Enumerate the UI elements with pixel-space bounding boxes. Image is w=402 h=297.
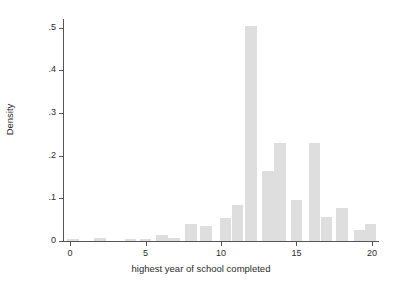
histogram-bar xyxy=(291,200,303,241)
histogram-bar xyxy=(140,239,152,241)
x-tick-mark xyxy=(70,242,71,246)
y-tick-mark xyxy=(59,28,63,29)
x-tick-label: 20 xyxy=(357,248,387,258)
histogram-figure: 0.1.2.3.4.5 05101520 highest year of sch… xyxy=(0,0,402,297)
histogram-bar xyxy=(365,224,377,242)
x-tick-label: 10 xyxy=(206,248,236,258)
x-tick-label: 5 xyxy=(131,248,161,258)
histogram-bar xyxy=(220,218,232,241)
histogram-bar xyxy=(185,224,197,241)
histogram-bar xyxy=(156,235,168,241)
y-tick-label: .5 xyxy=(48,23,56,32)
x-tick-mark xyxy=(296,242,297,246)
histogram-bar xyxy=(245,26,257,241)
histogram-bar xyxy=(309,143,321,241)
y-tick-mark xyxy=(59,156,63,157)
y-tick-label: .2 xyxy=(48,151,56,160)
x-tick-mark xyxy=(146,242,147,246)
histogram-bar xyxy=(125,239,137,241)
histogram-bar xyxy=(232,205,244,241)
x-tick-mark xyxy=(221,242,222,246)
y-tick-mark xyxy=(59,241,63,242)
y-tick-label: .4 xyxy=(48,65,56,74)
bars-layer xyxy=(64,19,378,241)
histogram-bar xyxy=(274,143,286,241)
y-axis-title: Density xyxy=(4,90,15,150)
histogram-bar xyxy=(336,208,348,241)
x-tick-label: 0 xyxy=(55,248,85,258)
histogram-bar xyxy=(168,238,180,241)
y-tick-mark xyxy=(59,70,63,71)
y-tick-label: .3 xyxy=(48,108,56,117)
x-tick-mark xyxy=(372,242,373,246)
x-axis-title: highest year of school completed xyxy=(0,263,402,274)
y-tick-mark xyxy=(59,113,63,114)
x-tick-label: 15 xyxy=(281,248,311,258)
histogram-bar xyxy=(67,239,79,241)
y-tick-label: .1 xyxy=(48,193,56,202)
y-tick-mark xyxy=(59,198,63,199)
y-tick-label: 0 xyxy=(51,236,56,245)
histogram-bar xyxy=(262,171,274,241)
histogram-bar xyxy=(321,217,333,241)
histogram-bar xyxy=(200,226,212,241)
histogram-bar xyxy=(94,238,106,241)
